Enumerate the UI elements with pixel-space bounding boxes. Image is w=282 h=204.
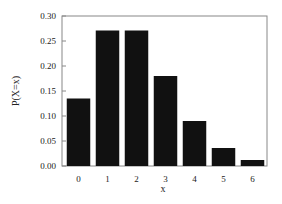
bar-1 [96,31,120,167]
x-axis-ticks: 0123456 [76,174,255,184]
x-tick-label: 6 [250,174,255,184]
x-tick-label: 1 [105,174,110,184]
x-tick-label: 5 [221,174,226,184]
bar-0 [67,99,91,167]
x-tick-label: 4 [192,174,197,184]
x-tick-label: 2 [134,174,139,184]
bar-5 [212,148,236,166]
x-axis-label: x [161,183,166,194]
y-tick-label: 0.20 [40,61,56,71]
bars [67,31,265,167]
bar-3 [154,76,178,166]
y-axis-label: P(X=x) [10,76,22,106]
bar-6 [241,160,265,166]
y-tick-label: 0.15 [40,86,56,96]
x-tick-label: 0 [76,174,81,184]
y-tick-label: 0.00 [40,161,56,171]
y-tick-label: 0.10 [40,111,56,121]
y-tick-label: 0.05 [40,136,56,146]
bar-chart: 0.000.050.100.150.200.250.30 0123456 x P… [0,0,282,204]
y-tick-label: 0.25 [40,36,56,46]
bar-4 [183,121,207,166]
bar-2 [125,31,149,167]
y-tick-label: 0.30 [40,11,56,21]
